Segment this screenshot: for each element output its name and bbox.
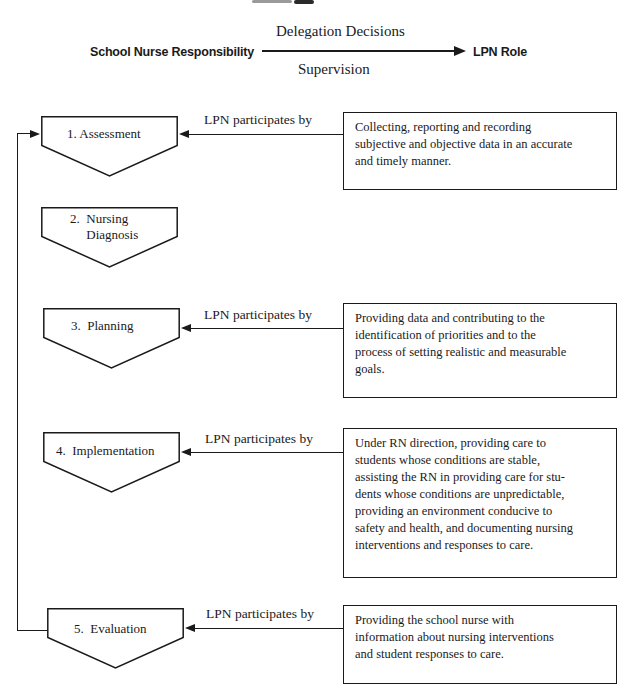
detail-box-implementation: Under RN direction, providing care to st… [343,428,617,578]
arrowhead-left-icon [181,324,191,332]
feedback-bottom-line [17,630,48,631]
detail-box-text: Providing data and contributing to the i… [344,304,616,378]
clipped-text-fragment [252,0,292,3]
detail-box-text: Under RN direction, providing care to st… [344,429,616,554]
connector-line [194,628,343,629]
step-pentagon-assessment: 1. Assessment [41,116,178,177]
arrowhead-left-icon [181,448,191,456]
header-arrowhead-icon [454,46,466,56]
header-arrow-bottom-label: Supervision [298,61,370,78]
header-left-label: School Nurse Responsibility [90,45,254,59]
detail-box-text: Providing the school nurse with informat… [344,606,616,663]
connector-label: LPN participates by [204,112,312,128]
feedback-vertical-line [17,133,18,631]
arrowhead-left-icon [185,624,195,632]
step-label: 4. Implementation [56,443,155,459]
detail-box-assessment: Collecting, reporting and recording subj… [343,112,617,190]
connector-line [190,452,343,453]
feedback-arrowhead-icon [30,130,40,138]
step-label: 5. Evaluation [74,621,147,637]
pentagon-shape-icon [43,432,180,493]
connector-label: LPN participates by [206,606,314,622]
step-pentagon-implementation: 4. Implementation [43,432,180,493]
arrowhead-left-icon [179,130,189,138]
step-label: 3. Planning [71,318,133,334]
step-pentagon-planning: 3. Planning [43,308,180,369]
detail-box-text: Collecting, reporting and recording subj… [344,113,616,170]
step-pentagon-nursing-diagnosis: 2. Nursing Diagnosis [41,207,178,268]
header-right-label: LPN Role [473,45,527,59]
header-arrow-top-label: Delegation Decisions [276,23,405,40]
connector-label: LPN participates by [204,307,312,323]
connector-line [188,134,343,135]
clipped-text-fragment [294,0,314,4]
step-label: 2. Nursing Diagnosis [70,211,138,242]
pentagon-shape-icon [47,608,184,669]
step-pentagon-evaluation: 5. Evaluation [47,608,184,669]
connector-label: LPN participates by [205,431,313,447]
step-label: 1. Assessment [67,126,141,142]
delegation-diagram-page: School Nurse Responsibility Delegation D… [0,0,633,699]
detail-box-evaluation: Providing the school nurse with informat… [343,605,617,684]
detail-box-planning: Providing data and contributing to the i… [343,303,617,398]
header-arrow-line [262,50,456,52]
connector-line [190,328,343,329]
